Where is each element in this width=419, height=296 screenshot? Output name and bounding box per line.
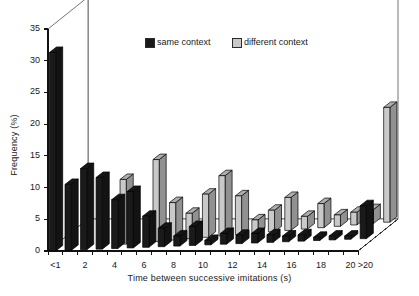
y-tick-label: 35 [18,23,40,33]
bar [318,198,331,228]
bar [202,189,215,238]
bar [219,170,232,236]
x-tick-label: 2 [70,260,100,270]
x-tick-label: 18 [306,260,336,270]
x-tick-label: 16 [277,260,307,270]
y-tick-label: 30 [18,55,40,65]
bar [360,200,373,238]
x-tick-label: 14 [247,260,277,270]
x-tick-label: <1 [40,260,70,270]
bar [285,192,298,230]
x-tick-label: 12 [218,260,248,270]
bar [158,223,171,247]
x-axis-title: Time between successive imitations (s) [0,273,419,283]
bar [49,47,62,251]
legend-label-different-context: different context [244,37,308,47]
y-tick-label: 20 [18,118,40,128]
bar [268,205,281,232]
bar [143,211,156,248]
bar [235,190,248,234]
bar [96,172,109,249]
bar [81,163,94,250]
bar [384,102,397,222]
x-tick-label: 4 [99,260,129,270]
legend-swatch-same-context [145,38,155,48]
x-tick-label: 8 [158,260,188,270]
bar-chart-figure: Frequency (%) Time between successive im… [0,0,419,296]
bar [112,194,125,248]
bar [65,179,78,250]
y-tick-label: 15 [18,150,40,160]
y-tick-label: 0 [18,245,40,255]
y-tick-label: 5 [18,213,40,223]
bar [127,186,140,248]
x-tick-label: 10 [188,260,218,270]
x-tick-label: 6 [129,260,159,270]
y-tick-label: 10 [18,182,40,192]
x-tick-label: >20 [350,260,380,270]
legend-swatch-different-context [232,38,242,48]
y-tick-label: 25 [18,86,40,96]
legend-label-same-context: same context [157,37,211,47]
bar [189,221,202,246]
